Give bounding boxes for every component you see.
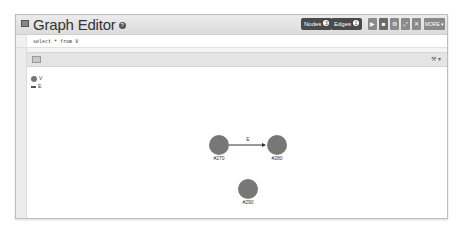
nodes-button-label: Nodes	[304, 21, 321, 27]
query-editor[interactable]: select * from V	[16, 35, 447, 48]
fullscreen-button[interactable]: ⤢	[401, 18, 410, 30]
help-icon[interactable]: ?	[119, 22, 126, 29]
clear-button[interactable]: ✕	[412, 18, 421, 30]
graph-editor-panel: Graph Editor? Nodes3 Edges1 ▶ ■ ⚙ ⤢ ✕ MO…	[15, 14, 448, 219]
graph-settings-dropdown[interactable]: ⚒ ▾	[431, 54, 441, 65]
svg-text:E: E	[246, 136, 250, 142]
graph-node[interactable]: #270	[209, 135, 229, 161]
graph-canvas[interactable]: V E E #270 #280	[27, 67, 447, 218]
graph-toolbar: ⚒ ▾	[27, 52, 447, 67]
save-icon: ■	[382, 21, 386, 27]
trash-icon: ✕	[414, 21, 419, 27]
save-button[interactable]: ■	[379, 18, 388, 30]
settings-button[interactable]: ⚙	[390, 18, 399, 30]
graph-icon	[21, 20, 29, 27]
graph-node[interactable]: #290	[238, 179, 258, 205]
query-gutter	[16, 35, 27, 47]
graph-node[interactable]: #280	[267, 135, 287, 161]
svg-text:#290: #290	[242, 199, 253, 205]
play-icon: ▶	[370, 21, 375, 27]
graph-edge[interactable]: E	[229, 136, 265, 145]
svg-text:#270: #270	[213, 155, 224, 161]
left-gutter	[16, 48, 27, 218]
page-title-text: Graph Editor	[33, 16, 116, 33]
nodes-count-badge: 3	[323, 20, 329, 26]
edges-button[interactable]: Edges1	[331, 18, 362, 30]
edges-button-label: Edges	[334, 21, 351, 27]
fullscreen-icon: ⤢	[403, 21, 408, 27]
svg-text:#280: #280	[271, 155, 282, 161]
more-dropdown-button[interactable]: MORE ▾	[424, 18, 445, 30]
toggle-panel-icon[interactable]	[32, 56, 41, 63]
gear-icon: ⚙	[392, 21, 397, 27]
page-title: Graph Editor?	[33, 15, 126, 34]
query-input[interactable]: select * from V	[33, 35, 78, 47]
edges-count-badge: 1	[353, 20, 359, 26]
graph-svg: E #270 #280 #290	[27, 67, 447, 218]
run-button[interactable]: ▶	[368, 18, 377, 30]
nodes-button[interactable]: Nodes3	[301, 18, 332, 30]
panel-header: Graph Editor? Nodes3 Edges1 ▶ ■ ⚙ ⤢ ✕ MO…	[16, 15, 447, 35]
